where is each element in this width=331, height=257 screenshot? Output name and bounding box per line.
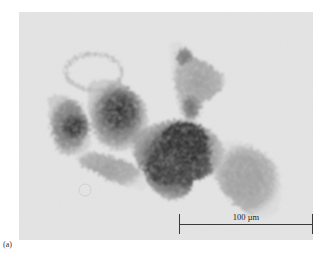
scale-bar-line [179,224,313,225]
scale-bar-label: 100 µm [179,212,313,222]
micrograph-image: 100 µm [19,12,313,240]
particle-aggregate [19,12,313,240]
panel-label: (a) [3,240,12,249]
scale-bar: 100 µm [179,212,313,234]
